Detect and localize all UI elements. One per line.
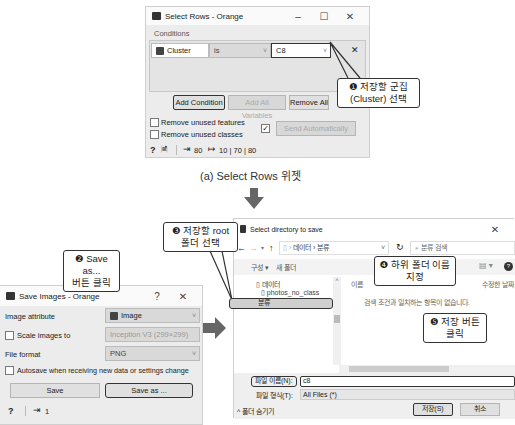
add-all-variables-button[interactable]: Add All Variables bbox=[228, 95, 286, 110]
condition-variable-select[interactable]: Cluster bbox=[151, 43, 209, 58]
organize-menu[interactable]: 구성 ▾ bbox=[251, 262, 268, 272]
tree-scrollbar[interactable]: ˄ bbox=[333, 277, 341, 365]
input-count: 1 bbox=[45, 407, 49, 416]
image-attribute-select[interactable]: Image˅ bbox=[105, 308, 200, 323]
dialog-titlebar: Select directory to save ✕ bbox=[234, 219, 514, 239]
refresh-button[interactable]: ↻ bbox=[396, 242, 404, 252]
tree-item-photos-no-class[interactable]: ▯ photos_no_class bbox=[261, 289, 319, 297]
save-button[interactable]: Save bbox=[10, 383, 100, 398]
chevron-down-icon: ˅ bbox=[263, 44, 267, 57]
address-bar[interactable]: ▯ › 데이터 › 분류 ˅ bbox=[279, 241, 389, 255]
remove-unused-classes-checkbox[interactable] bbox=[150, 130, 159, 139]
up-button[interactable]: ↑ bbox=[269, 243, 274, 253]
remove-unused-features-checkbox[interactable] bbox=[150, 118, 159, 127]
input-icon: ⇥ bbox=[33, 405, 41, 415]
callout-5: ❺ 저장 버튼 클릭 bbox=[423, 313, 487, 343]
minimize-button[interactable]: – bbox=[285, 11, 311, 22]
save-icon bbox=[6, 292, 15, 300]
filename-label: 파일 이름(N): bbox=[251, 376, 297, 387]
input-count: 80 bbox=[194, 146, 202, 155]
callout-4: ❹ 하위 폴더 이름 지정 bbox=[374, 256, 456, 286]
save-button[interactable]: 저장(S) bbox=[413, 403, 453, 416]
callout-1: ❶ 저장할 군집 (Cluster) 선택 bbox=[337, 78, 420, 108]
column-modified[interactable]: 수정한 날짜 bbox=[482, 279, 514, 289]
select-rows-titlebar: Select Rows - Orange – ☐ ✕ bbox=[146, 7, 369, 25]
filetype-select[interactable]: All Files (*) bbox=[300, 389, 515, 400]
tree-item-classification[interactable]: 분류 bbox=[229, 298, 333, 309]
help-button[interactable]: ? bbox=[144, 291, 170, 302]
status-separator bbox=[25, 406, 26, 416]
folder-dialog-icon bbox=[240, 225, 246, 233]
new-folder-button[interactable]: 새 폴더 bbox=[276, 262, 296, 272]
status-separator bbox=[176, 145, 177, 155]
search-input[interactable]: ⌕ 분류 검색 bbox=[410, 241, 515, 255]
file-format-label: File format bbox=[5, 350, 40, 359]
recent-dropdown[interactable]: ▾ bbox=[261, 244, 264, 251]
close-button[interactable]: ✕ bbox=[337, 11, 363, 22]
scroll-thumb[interactable] bbox=[334, 315, 340, 323]
column-name[interactable]: 이름 bbox=[351, 279, 363, 289]
window-title: Select Rows - Orange bbox=[165, 12, 285, 21]
scroll-up-icon[interactable]: ˄ bbox=[333, 277, 341, 283]
help-icon[interactable]: ? bbox=[504, 262, 513, 271]
maximize-button[interactable]: ☐ bbox=[311, 11, 337, 22]
close-button[interactable]: ✕ bbox=[482, 224, 508, 235]
help-icon[interactable]: ? bbox=[150, 145, 156, 155]
help-icon[interactable]: ? bbox=[8, 406, 14, 416]
autosave-checkbox[interactable] bbox=[5, 366, 14, 375]
scale-images-select[interactable]: Inception V3 (299×299) bbox=[105, 327, 200, 342]
callout-3: ❸ 저장할 root 폴더 선택 bbox=[163, 222, 238, 252]
condition-operator-select[interactable]: is˅ bbox=[209, 43, 271, 58]
folder-icon: ▯ › bbox=[283, 244, 293, 251]
image-attribute-label: Image attribute bbox=[5, 312, 55, 321]
window-title: Save Images - Orange bbox=[19, 292, 144, 301]
tree-item-data[interactable]: ▯ 데이터 bbox=[256, 279, 280, 289]
scale-images-label: Scale images to bbox=[17, 331, 70, 340]
cancel-button[interactable]: 취소 bbox=[460, 403, 500, 416]
callout-2: ❷ Save as... 버튼 클릭 bbox=[63, 250, 120, 292]
filename-input[interactable]: c8 bbox=[300, 376, 515, 387]
filetype-label: 파일 형식(T): bbox=[256, 390, 293, 400]
chevron-down-icon: ˅ bbox=[192, 309, 196, 322]
back-button[interactable]: ← bbox=[237, 243, 246, 253]
categorical-variable-icon bbox=[156, 47, 164, 55]
send-automatically-button[interactable]: Send Automatically bbox=[276, 121, 356, 136]
scale-images-checkbox[interactable] bbox=[5, 331, 14, 340]
scroll-thumb[interactable] bbox=[349, 366, 449, 372]
save-as-button[interactable]: Save as ... bbox=[105, 383, 193, 398]
report-icon[interactable]: 🗎 bbox=[161, 144, 167, 157]
breadcrumb-0[interactable]: 데이터 bbox=[293, 244, 311, 251]
output-counts: 10 | 70 | 80 bbox=[219, 146, 256, 155]
conditions-label: Conditions bbox=[154, 29, 189, 38]
dialog-title: Select directory to save bbox=[250, 226, 482, 233]
chevron-down-icon[interactable]: ˅ bbox=[381, 242, 385, 254]
breadcrumb-1[interactable]: 분류 bbox=[317, 244, 329, 251]
forward-button[interactable]: → bbox=[249, 243, 258, 253]
view-options-icon[interactable]: ▤ ▾ bbox=[479, 261, 493, 270]
hide-folders-toggle[interactable]: ^ 폴더 숨기기 bbox=[237, 406, 274, 416]
remove-unused-features-label: Remove unused features bbox=[161, 118, 245, 127]
orange-app-icon bbox=[152, 12, 161, 20]
input-icon: ⇥ bbox=[183, 144, 191, 154]
chevron-down-icon: ˅ bbox=[323, 44, 327, 57]
condition-value-select[interactable]: C8˅ bbox=[271, 43, 331, 58]
output-icon: ↦ bbox=[208, 144, 216, 154]
add-condition-button[interactable]: Add Condition bbox=[173, 95, 225, 110]
empty-list-message: 검색 조건과 일치하는 항목이 없습니다. bbox=[364, 297, 470, 307]
chevron-down-icon: ˅ bbox=[192, 347, 196, 360]
remove-unused-classes-label: Remove unused classes bbox=[161, 130, 243, 139]
close-button[interactable]: ✕ bbox=[170, 291, 196, 302]
autosave-label: Autosave when receiving new data or sett… bbox=[17, 366, 189, 375]
select-rows-caption: (a) Select Rows 위젯 bbox=[200, 167, 301, 183]
horizontal-scrollbar[interactable] bbox=[339, 365, 515, 373]
remove-all-button[interactable]: Remove All bbox=[289, 95, 329, 110]
file-format-select[interactable]: PNG˅ bbox=[105, 346, 200, 361]
remove-condition-button[interactable]: ✕ bbox=[351, 45, 359, 55]
image-variable-icon bbox=[110, 312, 118, 320]
send-automatically-checkbox[interactable]: ✓ bbox=[261, 124, 270, 133]
save-images-window: Save Images - Orange ? ✕ Image attribute… bbox=[0, 285, 203, 425]
